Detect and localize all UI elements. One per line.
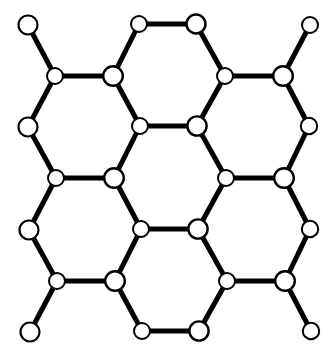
lattice-node [273, 66, 293, 86]
lattice-node [188, 219, 207, 238]
lattice-node [132, 118, 148, 134]
lattice-node [303, 323, 319, 339]
hexagonal-lattice-figure [0, 0, 336, 358]
lattice-node [302, 17, 318, 33]
lattice-node [49, 273, 65, 289]
lattice-node [48, 170, 64, 186]
lattice-node [274, 168, 294, 188]
lattice-node [302, 221, 318, 237]
lattice-node [19, 118, 38, 137]
lattice-node [105, 271, 125, 291]
lattice-node [131, 16, 147, 32]
lattice-node [301, 118, 317, 134]
lattice-node [187, 116, 206, 135]
lattice-node [134, 323, 150, 339]
lattice-node [218, 170, 234, 186]
lattice-node [104, 168, 124, 188]
lattice-node [133, 221, 149, 237]
lattice-node [189, 321, 208, 340]
lattice-node [103, 66, 123, 86]
lattice-node [47, 68, 63, 84]
lattice-node [19, 16, 38, 35]
lattice-canvas [0, 0, 336, 358]
lattice-node [275, 271, 295, 291]
lattice-node [187, 15, 206, 34]
lattice-node [219, 273, 235, 289]
lattice-node [21, 323, 40, 342]
lattice-node [217, 68, 233, 84]
lattice-node [20, 221, 39, 240]
